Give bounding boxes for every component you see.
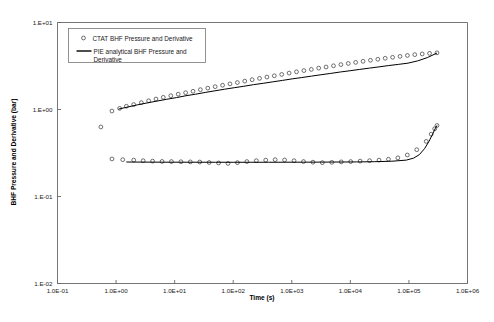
series-3 <box>126 125 437 162</box>
data-point-marker <box>250 78 254 82</box>
data-point-marker <box>191 89 195 93</box>
data-point-marker <box>376 57 380 61</box>
data-point-marker <box>176 92 180 96</box>
chart-legend: CTAT BHF Pressure and DerivativePIE anal… <box>69 29 206 63</box>
x-tick-label: 1.0E+01 <box>163 287 187 294</box>
data-point-marker <box>161 95 165 99</box>
data-point-marker <box>391 55 395 59</box>
data-point-marker <box>387 157 391 161</box>
data-point-marker <box>339 63 343 67</box>
y-tick-label: 1.E-02 <box>34 280 53 287</box>
data-point-marker <box>302 69 306 73</box>
x-tick-label: 1.0E+03 <box>280 287 304 294</box>
x-tick-label: 1.0E+00 <box>104 287 128 294</box>
data-point-marker <box>235 81 239 85</box>
data-point-marker <box>415 148 419 152</box>
data-point-marker <box>264 158 268 162</box>
data-point-marker <box>369 58 373 62</box>
data-point-marker <box>154 97 158 101</box>
data-point-marker <box>398 54 402 58</box>
data-point-marker <box>361 59 365 63</box>
data-point-marker <box>206 86 210 90</box>
x-axis-title: Time (s) <box>249 294 274 302</box>
data-point-marker <box>228 82 232 86</box>
x-tick-label: 1.0E+02 <box>222 287 246 294</box>
data-point-marker <box>383 56 387 60</box>
x-tick-label: 1.0E+05 <box>397 287 421 294</box>
data-point-marker <box>121 158 125 162</box>
x-tick-label: 1.0E+04 <box>339 287 363 294</box>
y-tick-label: 1.E-01 <box>34 193 53 200</box>
data-point-marker <box>217 161 221 165</box>
data-point-marker <box>213 85 217 89</box>
series-1 <box>110 124 439 166</box>
data-point-marker <box>424 139 428 143</box>
data-point-marker <box>273 158 277 162</box>
data-point-marker <box>283 158 287 162</box>
data-point-marker <box>354 60 358 64</box>
y-axis-title: BHF Pressure and Derivative (bar) <box>10 98 18 205</box>
chart-figure: 1.0E-011.0E+001.0E+011.0E+021.0E+031.0E+… <box>0 0 494 322</box>
x-axis-tick-labels: 1.0E-011.0E+001.0E+011.0E+021.0E+031.0E+… <box>47 287 480 294</box>
log-log-plot: 1.0E-011.0E+001.0E+011.0E+021.0E+031.0E+… <box>0 0 494 322</box>
data-point-marker <box>287 71 291 75</box>
y-tick-label: 1.E+00 <box>33 106 53 113</box>
data-point-marker <box>280 73 284 77</box>
data-point-marker <box>317 66 321 70</box>
data-point-marker <box>99 125 103 129</box>
data-point-marker <box>258 76 262 80</box>
data-point-marker <box>265 75 269 79</box>
data-point-marker <box>320 161 324 165</box>
x-tick-label: 1.0E-01 <box>47 287 69 294</box>
data-point-marker <box>346 62 350 66</box>
data-point-marker <box>332 64 336 68</box>
x-tick-label: 1.0E+06 <box>456 287 480 294</box>
data-point-marker <box>245 160 249 164</box>
data-series <box>99 51 439 165</box>
data-point-marker <box>295 70 299 74</box>
data-point-marker <box>110 109 114 113</box>
data-point-marker <box>110 157 114 161</box>
data-point-marker <box>309 68 313 72</box>
data-point-marker <box>302 160 306 164</box>
data-point-marker <box>272 74 276 78</box>
data-point-marker <box>413 53 417 57</box>
data-point-marker <box>132 158 136 162</box>
data-point-marker <box>160 160 164 164</box>
data-point-marker <box>428 51 432 55</box>
data-point-marker <box>358 159 362 163</box>
data-point-marker <box>406 54 410 58</box>
data-point-marker <box>169 160 173 164</box>
data-point-marker <box>420 52 424 56</box>
y-tick-label: 1.E+01 <box>33 19 53 26</box>
data-point-marker <box>243 79 247 83</box>
y-axis-tick-labels: 1.E+011.E+001.E-011.E-02 <box>33 19 53 287</box>
data-point-marker <box>198 88 202 92</box>
data-point-marker <box>221 83 225 87</box>
data-point-marker <box>184 91 188 95</box>
data-point-marker <box>324 65 328 69</box>
data-point-marker <box>405 153 409 157</box>
data-point-marker <box>169 94 173 98</box>
legend-label-0: CTAT BHF Pressure and Derivative <box>93 35 194 42</box>
series-line-path <box>126 125 437 162</box>
data-point-marker <box>396 156 400 160</box>
